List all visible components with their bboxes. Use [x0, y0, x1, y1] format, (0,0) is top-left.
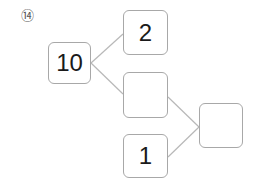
- line-root-to-middle: [91, 63, 123, 94]
- line-middle-to-result: [168, 97, 199, 127]
- box-root: 10: [48, 42, 91, 84]
- box-top-right: 2: [123, 10, 168, 55]
- box-middle-blank[interactable]: [123, 72, 168, 118]
- box-bottom: 1: [123, 134, 168, 178]
- line-bottom-to-result: [168, 127, 199, 157]
- box-result-blank[interactable]: [199, 103, 243, 148]
- line-root-to-top: [91, 34, 123, 63]
